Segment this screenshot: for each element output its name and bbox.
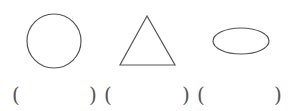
answer-1-open-paren: ( bbox=[12, 83, 20, 107]
triangle-shape bbox=[120, 16, 175, 65]
answer-2-open-paren: ( bbox=[104, 83, 112, 107]
answer-1-close-paren: ) bbox=[89, 83, 97, 107]
answer-3-open-paren: ( bbox=[197, 83, 205, 107]
circle-shape bbox=[27, 14, 81, 68]
answer-3-close-paren: ) bbox=[274, 83, 282, 107]
shapes-figure bbox=[0, 0, 292, 111]
ellipse-shape bbox=[213, 28, 269, 54]
answer-2-close-paren: ) bbox=[182, 83, 190, 107]
